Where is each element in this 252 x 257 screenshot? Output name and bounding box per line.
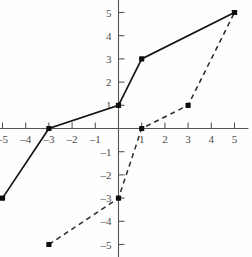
x-tick-label: 1: [139, 133, 145, 145]
plot-area: –5–4–3–2–112345 54321–1–2–3–4–5: [0, 0, 252, 257]
y-tick-label: 4: [106, 30, 112, 42]
x-tick-label: 5: [232, 133, 238, 145]
x-axis: –5–4–3–2–112345: [0, 123, 248, 145]
x-tick-label: 4: [209, 133, 215, 145]
chart-figure: –5–4–3–2–112345 54321–1–2–3–4–5: [0, 0, 252, 257]
y-tick-label: –3: [100, 192, 113, 204]
y-tick-label: 2: [106, 76, 112, 88]
x-tick-label: –5: [0, 133, 9, 145]
y-tick-label: –2: [100, 169, 112, 181]
x-tick-label: –2: [66, 133, 78, 145]
data-point-marker: [139, 56, 144, 61]
y-tick-label: –1: [100, 146, 112, 158]
y-tick-label: –5: [100, 239, 113, 251]
y-tick-label: –4: [100, 215, 113, 227]
data-point-marker: [116, 103, 121, 108]
data-point-marker: [116, 196, 121, 201]
x-tick-label: –1: [89, 133, 101, 145]
data-point-marker: [139, 126, 144, 131]
x-tick-label: 2: [162, 133, 168, 145]
y-tick-label: 5: [106, 7, 112, 19]
data-point-marker: [232, 10, 237, 15]
data-point-marker: [0, 196, 5, 201]
x-tick-label: 3: [185, 133, 191, 145]
data-point-marker: [186, 103, 191, 108]
x-tick-label: –4: [19, 133, 32, 145]
data-point-marker: [46, 242, 51, 247]
data-point-marker: [46, 126, 51, 131]
y-tick-label: 3: [106, 53, 112, 65]
